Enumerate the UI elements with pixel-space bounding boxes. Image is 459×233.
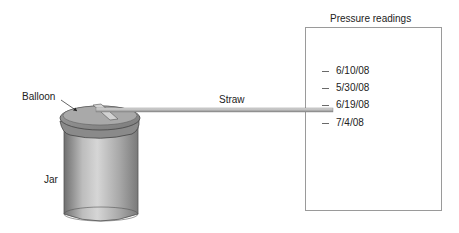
balloon-label: Balloon — [22, 91, 55, 102]
reading-date: 5/30/08 — [336, 82, 369, 93]
straw — [96, 108, 333, 112]
reading-date: 6/10/08 — [336, 65, 369, 76]
reading-date: 6/19/08 — [336, 99, 369, 110]
jar — [64, 127, 138, 221]
jar-label: Jar — [44, 174, 58, 185]
panel-title: Pressure readings — [330, 13, 411, 24]
straw-label: Straw — [219, 94, 245, 105]
reading-date: 7/4/08 — [336, 117, 364, 128]
barometer-diagram — [0, 0, 459, 233]
pressure-readings-panel — [306, 28, 442, 211]
